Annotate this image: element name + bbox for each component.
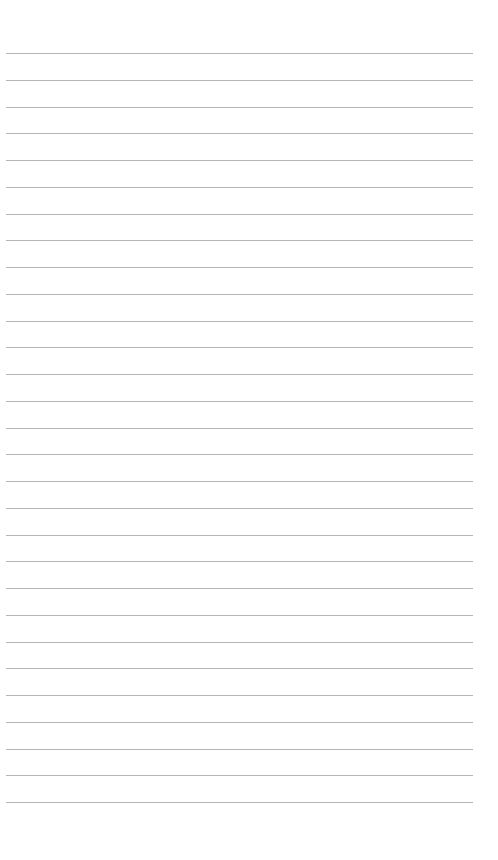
ruled-line xyxy=(6,561,473,562)
ruled-line xyxy=(6,535,473,536)
ruled-line xyxy=(6,454,473,455)
ruled-line xyxy=(6,160,473,161)
ruled-line xyxy=(6,107,473,108)
ruled-line xyxy=(6,722,473,723)
lined-paper-page xyxy=(0,0,498,860)
ruled-line xyxy=(6,401,473,402)
ruled-line xyxy=(6,588,473,589)
ruled-line xyxy=(6,133,473,134)
ruled-line xyxy=(6,347,473,348)
ruled-line xyxy=(6,668,473,669)
ruled-line xyxy=(6,428,473,429)
ruled-line xyxy=(6,749,473,750)
ruled-line xyxy=(6,80,473,81)
ruled-line xyxy=(6,695,473,696)
ruled-line xyxy=(6,187,473,188)
ruled-line xyxy=(6,214,473,215)
ruled-line xyxy=(6,321,473,322)
ruled-line xyxy=(6,481,473,482)
ruled-line xyxy=(6,374,473,375)
ruled-line xyxy=(6,53,473,54)
ruled-line xyxy=(6,802,473,803)
ruled-line xyxy=(6,240,473,241)
ruled-line xyxy=(6,615,473,616)
ruled-line xyxy=(6,267,473,268)
ruled-line xyxy=(6,642,473,643)
ruled-line xyxy=(6,775,473,776)
ruled-line xyxy=(6,294,473,295)
ruled-line xyxy=(6,508,473,509)
